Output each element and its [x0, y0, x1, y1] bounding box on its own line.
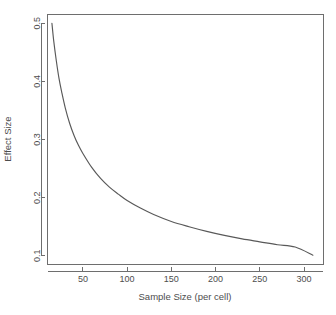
x-tick-label: 300: [297, 274, 312, 284]
x-tick-label: 250: [252, 274, 267, 284]
y-tick-label: 0.2: [32, 191, 42, 204]
x-axis-title: Sample Size (per cell): [139, 291, 232, 302]
effect-size-plot: 0.10.20.30.40.5 50100150200250300 Sample…: [0, 0, 336, 315]
effect-size-curve: [52, 23, 313, 255]
y-axis: 0.10.20.30.40.5: [32, 17, 45, 262]
x-tick-label: 150: [164, 274, 179, 284]
plot-frame: [48, 15, 324, 265]
y-axis-title: Effect Size: [2, 116, 13, 161]
x-tick-label: 50: [78, 274, 88, 284]
x-tick-group: 50100150200250300: [78, 267, 312, 284]
y-tick-group: 0.10.20.30.40.5: [32, 17, 45, 262]
y-tick-label: 0.5: [32, 17, 42, 30]
x-axis: 50100150200250300: [48, 267, 323, 284]
y-tick-label: 0.4: [32, 75, 42, 88]
chart-container: 0.10.20.30.40.5 50100150200250300 Sample…: [0, 0, 336, 315]
y-tick-label: 0.1: [32, 250, 42, 263]
x-tick-label: 100: [120, 274, 135, 284]
y-tick-label: 0.3: [32, 133, 42, 146]
x-tick-label: 200: [208, 274, 223, 284]
